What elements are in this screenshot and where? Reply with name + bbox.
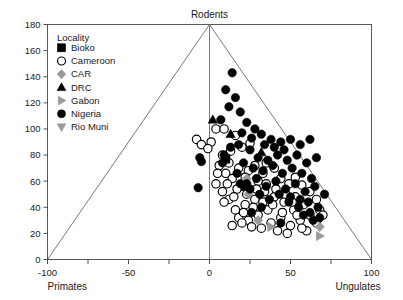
data-point [231,206,239,214]
data-point [228,69,236,77]
y-tick-label: 180 [25,19,41,30]
data-point [212,180,220,188]
x-tick-label: 0 [207,267,212,278]
data-point [256,190,264,198]
legend-label-cameroon: Cameroon [71,55,115,66]
data-point [243,118,251,126]
data-point [222,86,230,94]
y-tick-label: 40 [30,202,41,213]
x-tick-label: -100 [38,267,57,278]
data-point [218,159,226,167]
data-point [312,195,320,203]
data-point [257,130,265,138]
data-point [254,153,262,161]
data-point [304,198,312,206]
data-point [239,159,247,167]
data-point [220,125,228,133]
legend-marker-gabon [58,96,66,105]
data-point [225,103,233,111]
legend: BiokoCameroonCARDRCGabonNigeriaRio Muni [57,42,115,132]
data-point [296,195,304,203]
data-point [197,157,205,165]
top-axis-title: Rodents [191,9,228,20]
data-points-layer [192,69,328,241]
data-point [239,208,247,216]
data-point [247,208,255,216]
data-point [252,174,260,182]
x-tick-label: -50 [122,267,136,278]
data-point [307,174,315,182]
data-point [309,216,317,224]
data-point [312,153,320,161]
data-point [303,159,311,167]
data-point [233,169,241,177]
data-point [234,140,242,148]
data-point [218,187,226,195]
data-point [236,180,244,188]
data-point [238,219,246,227]
data-point [301,187,309,195]
data-point [222,169,230,177]
data-point [288,164,296,172]
data-point [230,193,238,201]
legend-label-gabon: Gabon [71,95,100,106]
data-point [262,182,270,190]
data-point [278,208,286,216]
data-point [265,195,273,203]
data-point [231,93,239,101]
legend-label-rio-muni: Rio Muni [71,121,109,132]
data-point [278,169,286,177]
y-tick-label: 100 [25,123,41,134]
legend-marker-cameroon [58,57,66,65]
data-point [246,146,254,154]
data-point [294,203,302,211]
y-tick-label: 120 [25,97,41,108]
data-point [314,203,322,211]
data-point [320,190,328,198]
data-point [220,198,228,206]
data-point [226,143,234,151]
data-point [247,223,255,231]
legend-label-car: CAR [71,68,91,79]
data-point [236,108,244,116]
data-point [275,190,283,198]
data-point [293,151,301,159]
x-tick-label: 50 [285,267,296,278]
y-tick-label: 0 [35,254,40,265]
x-tick-label: 100 [364,267,380,278]
legend-marker-car [57,70,66,79]
data-point [194,183,202,191]
data-point [283,156,291,164]
legend-marker-drc [57,83,66,91]
data-point [306,135,314,143]
data-point [228,221,236,229]
x-axis-title-left: Primates [48,281,87,292]
data-point [286,135,294,143]
data-point [272,177,280,185]
legend-marker-nigeria [58,110,66,118]
data-point [298,224,306,232]
data-point [283,229,291,237]
data-point [286,193,294,201]
data-point [259,167,267,175]
data-point [241,200,249,208]
data-point [270,143,278,151]
y-tick-label: 160 [25,45,41,56]
data-point [311,182,319,190]
data-point [212,125,220,133]
data-point [249,164,257,172]
y-tick-label: 60 [30,176,41,187]
data-point [238,129,246,137]
data-point [213,169,221,177]
data-point [247,134,255,142]
data-point [268,161,276,169]
data-point [204,144,212,152]
legend-marker-bioko [58,44,66,52]
data-point [291,180,299,188]
data-point [273,151,281,159]
ternary-scatter-chart: 020406080100120140160180-100-50050100Rod… [0,0,403,300]
data-point [298,169,306,177]
data-point [299,211,307,219]
legend-label-drc: DRC [71,82,92,93]
data-point [286,221,294,229]
